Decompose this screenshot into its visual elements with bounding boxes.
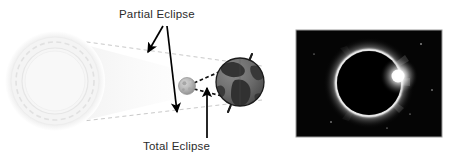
earth-axis-north-pole	[250, 54, 253, 60]
moon-crater-4	[182, 88, 185, 91]
sun	[5, 31, 105, 131]
star	[330, 121, 331, 122]
star	[431, 89, 432, 90]
star	[313, 53, 314, 54]
eclipse-diagram: Partial Eclipse Total Eclipse	[0, 0, 452, 161]
partial-eclipse-arrow-upper	[148, 26, 163, 52]
star	[420, 43, 422, 45]
sun-core	[25, 51, 85, 111]
eclipse-figure: Partial Eclipse Total Eclipse	[0, 0, 452, 161]
moon-disk	[179, 78, 196, 95]
eclipse-photo	[296, 30, 442, 137]
landmass-australia	[255, 93, 265, 102]
total-eclipse-label: Total Eclipse	[143, 140, 210, 152]
star	[386, 127, 387, 128]
star	[409, 113, 410, 114]
earth-axis-south-pole	[228, 106, 231, 112]
moon-crater-1	[182, 81, 186, 85]
moon	[179, 78, 196, 95]
diamond-ring-hotspot	[395, 73, 401, 79]
moon-crater-2	[188, 87, 191, 90]
earth	[216, 54, 264, 112]
moon-crater-3	[189, 81, 191, 83]
partial-eclipse-label: Partial Eclipse	[119, 8, 195, 20]
